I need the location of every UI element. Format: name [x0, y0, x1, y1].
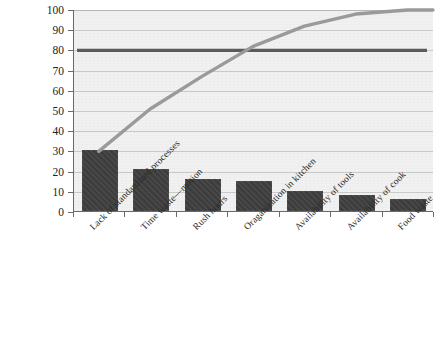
x-axis: Lack of standardized processesTime waste…: [0, 0, 446, 337]
x-tick-mark: [382, 212, 383, 217]
pareto-chart: 1009080706050403020100 Lack of standardi…: [0, 0, 446, 337]
x-tick-mark: [433, 212, 434, 217]
x-tick-mark: [279, 212, 280, 217]
x-tick-mark: [176, 212, 177, 217]
x-axis-category-label: Rush hours: [190, 193, 229, 232]
x-axis-category-label: Lack of standardized processes: [88, 138, 182, 232]
x-tick-mark: [124, 212, 125, 217]
x-axis-category-label: Food waste: [396, 193, 435, 232]
x-tick-mark: [73, 212, 74, 217]
x-tick-mark: [227, 212, 228, 217]
x-tick-mark: [330, 212, 331, 217]
